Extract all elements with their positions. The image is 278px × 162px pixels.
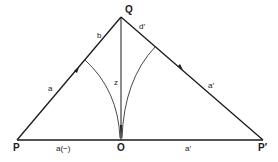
point-label-p: P xyxy=(13,143,20,153)
left-arc xyxy=(85,60,120,138)
right-arc xyxy=(122,47,155,138)
point-label-o: O xyxy=(117,143,125,153)
side-q-p-prime xyxy=(121,17,263,140)
edge-label-a-minus: a(−) xyxy=(56,145,70,153)
edge-label-z: z xyxy=(114,79,118,87)
edge-label-d-prime: d′ xyxy=(139,23,145,31)
point-label-q: Q xyxy=(125,5,133,15)
side-p-q xyxy=(17,17,121,140)
edge-label-a: a xyxy=(48,85,52,93)
edge-label-a-prime-right: a′ xyxy=(208,82,214,90)
edge-label-a-prime-base: a′ xyxy=(185,145,191,153)
triangle-diagram: Q b d′ a a′ z P a(−) O a′ P′ xyxy=(0,0,278,162)
point-label-p-prime: P′ xyxy=(258,143,267,153)
edge-label-b: b xyxy=(97,32,101,40)
